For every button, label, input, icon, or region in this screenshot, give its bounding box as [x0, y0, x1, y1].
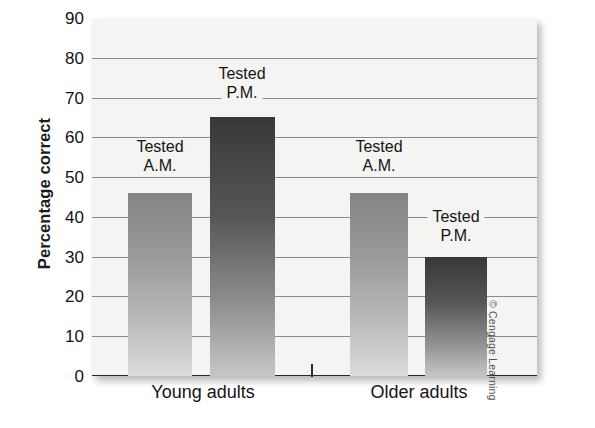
bar-annotation-line-1: Tested: [131, 138, 188, 157]
bar-annotation-line-2: P.M.: [427, 227, 484, 246]
bar-annotation-line-1: Tested: [427, 208, 484, 227]
y-axis-tick-label: 20: [46, 288, 84, 305]
x-axis-category-label: Young adults: [151, 382, 254, 403]
y-axis-tick-label: 90: [46, 10, 84, 27]
y-axis-tick-label: 60: [46, 129, 84, 146]
bar-annotation: TestedA.M.: [350, 138, 407, 176]
bar-chart-figure: Percentage correct 9080706050403020100 T…: [0, 0, 595, 428]
bar-annotation-line-2: A.M.: [131, 157, 188, 176]
plot-inner: TestedA.M.TestedP.M.TestedA.M.TestedP.M.: [92, 18, 537, 376]
bar: [128, 193, 192, 376]
plot-area: TestedA.M.TestedP.M.TestedA.M.TestedP.M.: [92, 18, 537, 376]
category-divider-tick: [311, 364, 313, 377]
gridline: [92, 58, 537, 59]
y-axis-tick-label: 0: [46, 368, 84, 385]
bar-annotation-line-1: Tested: [213, 65, 270, 84]
gridline: [92, 177, 537, 178]
bar: [210, 117, 275, 376]
y-axis-tick-label: 10: [46, 328, 84, 345]
bar-annotation: TestedP.M.: [213, 65, 270, 103]
x-axis-category-labels: Young adultsOlder adults: [92, 382, 537, 416]
bar: [350, 193, 408, 376]
bar-annotation-line-2: P.M.: [213, 84, 270, 103]
y-axis-tick-label: 50: [46, 169, 84, 186]
y-axis-tick-labels: 9080706050403020100: [46, 0, 84, 428]
bar-annotation: TestedA.M.: [131, 138, 188, 176]
y-axis-tick-label: 80: [46, 49, 84, 66]
y-axis-tick-label: 70: [46, 89, 84, 106]
bar-annotation-line-2: A.M.: [350, 157, 407, 176]
x-axis-category-label: Older adults: [370, 382, 467, 403]
gridline: [92, 98, 537, 99]
bar-annotation: TestedP.M.: [427, 208, 484, 246]
y-axis-tick-label: 30: [46, 248, 84, 265]
y-axis-tick-label: 40: [46, 208, 84, 225]
copyright-credit: © Cengage Learning: [487, 300, 499, 428]
bar-annotation-line-1: Tested: [350, 138, 407, 157]
bar: [425, 257, 487, 376]
